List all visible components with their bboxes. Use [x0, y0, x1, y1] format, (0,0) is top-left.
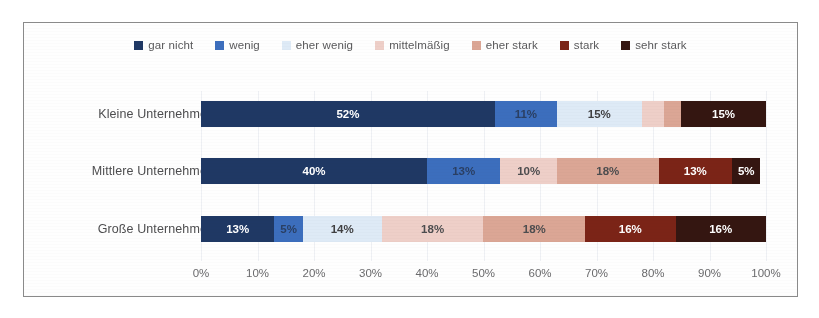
x-axis: 0%10%20%30%40%50%60%70%80%90%100% — [201, 267, 766, 287]
chart-frame: gar nichtwenigeher wenigmittelmäßigeher … — [23, 22, 798, 297]
bar-segment-value-label: 5% — [280, 223, 297, 235]
x-axis-tick-label: 60% — [528, 267, 551, 279]
bar-segment[interactable]: 40% — [201, 158, 427, 184]
bar-segment-value-label: 13% — [452, 165, 475, 177]
bar-segment-value-label: 16% — [709, 223, 732, 235]
bar-row: Mittlere Unternehmen40%13%10%18%13%5% — [24, 158, 797, 184]
bar-segment[interactable]: 14% — [303, 216, 382, 242]
bar-segment-value-label: 10% — [517, 165, 540, 177]
bar-segment[interactable]: 52% — [201, 101, 495, 127]
bar-segment[interactable]: 5% — [274, 216, 302, 242]
x-axis-tick-label: 80% — [641, 267, 664, 279]
bar-segment-value-label: 5% — [738, 165, 755, 177]
bar-segment[interactable] — [642, 101, 665, 127]
x-axis-tick-label: 30% — [359, 267, 382, 279]
bar-segment[interactable]: 15% — [557, 101, 642, 127]
bar-segment-value-label: 18% — [523, 223, 546, 235]
bar-segment-value-label: 18% — [596, 165, 619, 177]
x-axis-tick-label: 40% — [415, 267, 438, 279]
bar-segment-value-label: 16% — [619, 223, 642, 235]
bar-segment-value-label: 11% — [515, 108, 537, 120]
bar-segment[interactable]: 18% — [483, 216, 585, 242]
bar-segment[interactable]: 10% — [500, 158, 557, 184]
category-label: Mittlere Unternehmen — [92, 158, 214, 184]
x-axis-tick-label: 10% — [246, 267, 269, 279]
x-axis-tick-label: 100% — [751, 267, 780, 279]
bar-segment[interactable]: 15% — [681, 101, 766, 127]
bar-row: Große Unternehmen13%5%14%18%18%16%16% — [24, 216, 797, 242]
bar-segment-value-label: 40% — [302, 165, 325, 177]
bar-segment-value-label: 15% — [712, 108, 735, 120]
bar-segment[interactable] — [664, 101, 681, 127]
x-axis-tick-label: 20% — [302, 267, 325, 279]
bar-segment[interactable]: 16% — [676, 216, 766, 242]
bar-segment[interactable]: 16% — [585, 216, 675, 242]
bar-segment-value-label: 18% — [421, 223, 444, 235]
bar-segment-value-label: 13% — [684, 165, 707, 177]
stacked-bar: 40%13%10%18%13%5% — [201, 158, 766, 184]
bar-segment-value-label: 13% — [226, 223, 249, 235]
bar-segment-value-label: 14% — [331, 223, 354, 235]
bar-segment-value-label: 15% — [588, 108, 611, 120]
x-axis-tick-label: 70% — [585, 267, 608, 279]
x-axis-tick-label: 0% — [193, 267, 210, 279]
category-label: Große Unternehmen — [98, 216, 214, 242]
stacked-bar: 52%11%15%15% — [201, 101, 766, 127]
x-axis-tick-label: 50% — [472, 267, 495, 279]
bar-segment[interactable]: 18% — [382, 216, 484, 242]
bar-segment[interactable]: 13% — [427, 158, 500, 184]
bar-segment[interactable]: 11% — [495, 101, 557, 127]
bar-row: Kleine Unternehmen52%11%15%15% — [24, 101, 797, 127]
bar-segment[interactable]: 13% — [659, 158, 732, 184]
plot-area: Kleine Unternehmen52%11%15%15%Mittlere U… — [24, 23, 797, 296]
bar-segment[interactable]: 5% — [732, 158, 760, 184]
bar-segment[interactable]: 13% — [201, 216, 274, 242]
stacked-bar: 13%5%14%18%18%16%16% — [201, 216, 766, 242]
category-label: Kleine Unternehmen — [98, 101, 214, 127]
bar-segment-value-label: 52% — [336, 108, 359, 120]
x-axis-tick-label: 90% — [698, 267, 721, 279]
bar-segment[interactable]: 18% — [557, 158, 659, 184]
